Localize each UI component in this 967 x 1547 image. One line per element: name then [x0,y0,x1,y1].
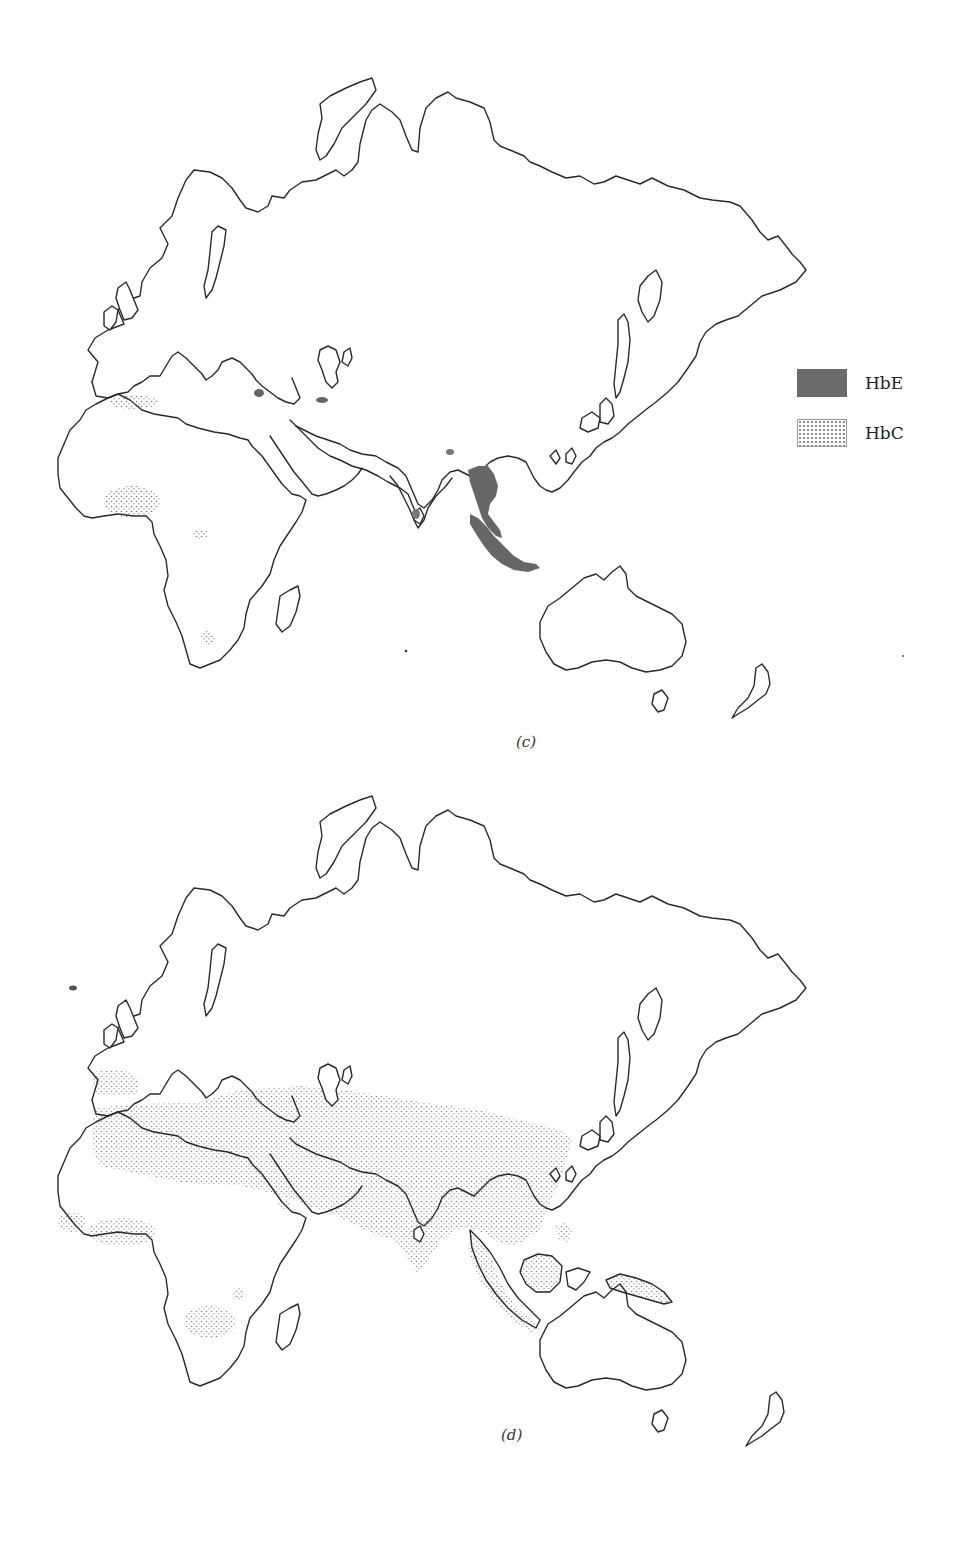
africa-outline [58,394,306,668]
iceland-dark-spot [69,986,77,991]
map-panel-d: (d) [0,790,967,1547]
hbe-regions [254,389,540,572]
legend-label-hbc: HbC [865,423,904,443]
caption-c: (c) [516,733,536,751]
hbc-swatch [797,419,847,447]
stipple-regions [58,1070,672,1338]
eurasia-outline [88,78,806,508]
australia-outline [540,566,770,718]
se-asia-islands-d [470,1230,672,1328]
map-d-svg [0,790,967,1547]
legend-label-hbe: HbE [865,373,903,393]
middle-east-india-outline [270,426,452,528]
legend: HbE HbC [797,368,904,468]
legend-item-hbc: HbC [797,418,904,448]
hbc-regions [104,395,215,645]
legend-item-hbe: HbE [797,368,904,398]
caption-d: (d) [501,1426,522,1444]
australia-outline-d [540,1284,784,1446]
map-panel-c: HbE HbC (c) [0,0,967,790]
hbe-swatch [797,369,847,397]
